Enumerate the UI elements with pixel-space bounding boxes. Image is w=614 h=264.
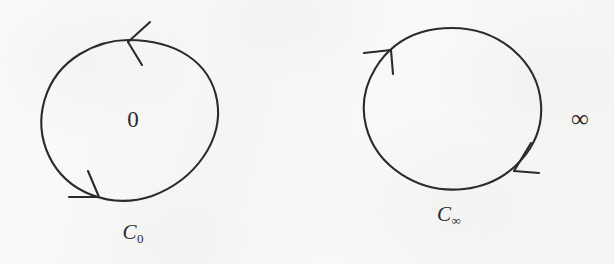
caption-c-zero-subscript: 0: [137, 230, 144, 245]
c-infinity-upper-arrowhead-barb: [391, 50, 393, 74]
caption-c-infinity: C∞: [437, 204, 461, 227]
c-zero-top-arrowhead: [128, 22, 150, 42]
contour-diagram-svg: [0, 0, 614, 264]
c-infinity-lower-arrowhead-barb: [514, 171, 539, 173]
caption-c-zero-base: C: [122, 220, 136, 244]
exterior-label-infinity: ∞: [571, 106, 589, 131]
caption-c-infinity-subscript: ∞: [452, 212, 461, 227]
interior-label-zero: 0: [127, 108, 139, 131]
c-infinity-lower-arrowhead: [514, 143, 531, 171]
caption-c-infinity-base: C: [437, 202, 451, 226]
caption-c-zero: C0: [122, 222, 143, 245]
c-zero-top-arrowhead-barb: [128, 42, 142, 65]
figure-canvas: 0 ∞ C0 C∞: [0, 0, 614, 264]
contour-c-infinity: [364, 28, 541, 190]
